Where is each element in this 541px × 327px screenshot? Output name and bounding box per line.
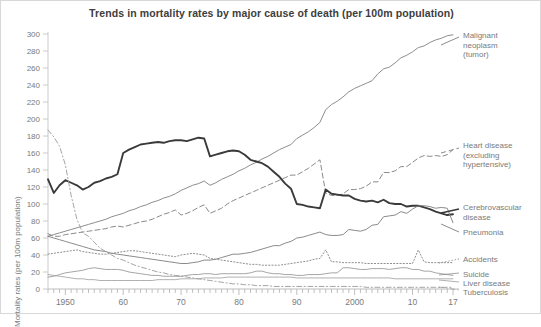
series-label-cerebro-line1: Cerebrovascular [463, 203, 522, 213]
leader-malignant [441, 37, 459, 45]
series-label-pneumonia: Pneumonia [463, 228, 503, 238]
series-label-accidents: Accidents [463, 255, 498, 265]
y-tick-label: 200 [27, 115, 41, 124]
series-line-malignant-neoplasm-tumor [48, 35, 453, 236]
y-tick-label: 240 [27, 81, 41, 90]
series-label-malignant-line3: (tumor) [463, 50, 498, 60]
x-tick-label: 70 [176, 297, 186, 307]
x-tick-label: 80 [234, 297, 244, 307]
x-axis: 19506070809020001017 [48, 289, 459, 307]
y-tick-label: 80 [31, 217, 40, 226]
y-tick-label: 120 [27, 183, 41, 192]
series-label-malignant-line1: Malignant [463, 31, 498, 41]
y-tick-label: 160 [27, 149, 41, 158]
series-line-liver-disease [48, 275, 453, 281]
series-line-suicide [48, 268, 453, 277]
y-tick-label: 100 [27, 200, 41, 209]
series-line-tuberculosis [48, 130, 453, 287]
x-tick-label: 17 [448, 297, 458, 307]
series-label-heart-line1: Heart disease [463, 141, 512, 151]
x-tick-label: 1950 [56, 297, 75, 307]
series-label-malignant: Malignant neoplasm (tumor) [463, 31, 498, 60]
y-tick-label: 140 [27, 166, 41, 175]
series-label-heart-line2: (excluding [463, 151, 512, 161]
x-tick-label: 10 [408, 297, 418, 307]
series-line-pneumonia [48, 206, 453, 264]
series-label-cerebrovascular: Cerebrovascular disease [463, 203, 522, 222]
series-label-cerebro-line2: disease [463, 213, 522, 223]
series-label-heart-disease: Heart disease (excluding hypertensive) [463, 141, 512, 170]
line-chart-plot: 0204060801001201401601802002202402602803… [1, 1, 541, 315]
x-tick-label: 90 [292, 297, 302, 307]
series-line-cerebrovascular-disease [48, 138, 453, 215]
y-tick-label: 40 [31, 251, 40, 260]
series-line-heart-disease-excluding-hypertensive [48, 150, 453, 237]
y-tick-label: 20 [31, 268, 40, 277]
y-tick-label: 260 [27, 64, 41, 73]
y-tick-label: 60 [31, 234, 40, 243]
x-tick-label: 60 [118, 297, 128, 307]
leader-cerebro [441, 209, 459, 213]
y-tick-label: 220 [27, 98, 41, 107]
series-label-heart-line3: hypertensive) [463, 160, 512, 170]
series-label-tuberculosis: Tuberculosis [463, 288, 508, 298]
series-lines [48, 35, 459, 290]
leader-pneumonia [441, 224, 459, 232]
series-label-malignant-line2: neoplasm [463, 41, 498, 51]
leader-liver [439, 280, 459, 282]
y-tick-label: 180 [27, 132, 41, 141]
x-tick-label: 2000 [345, 297, 364, 307]
y-tick-label: 280 [27, 47, 41, 56]
y-tick-label: 300 [27, 30, 41, 39]
leader-tuberculosis [439, 287, 459, 290]
y-tick-label: 0 [36, 285, 41, 294]
y-axis-ticks: 0204060801001201401601802002202402602803… [27, 30, 48, 294]
